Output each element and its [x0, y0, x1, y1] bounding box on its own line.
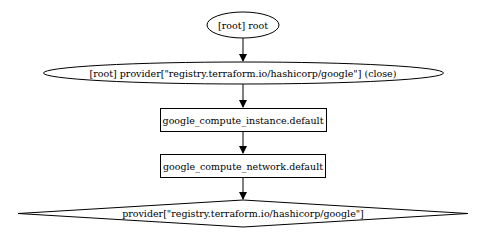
dependency-graph: [root] root [root] provider["registry.te…: [0, 0, 489, 232]
node-root-label: [root] root: [218, 20, 268, 31]
node-provider[interactable]: provider["registry.terraform.io/hashicor…: [18, 200, 468, 227]
node-provider-close[interactable]: [root] provider["registry.terraform.io/h…: [44, 62, 444, 84]
node-compute-instance[interactable]: google_compute_instance.default: [161, 109, 327, 132]
node-compute-network[interactable]: google_compute_network.default: [161, 155, 326, 178]
node-root[interactable]: [root] root: [207, 12, 279, 38]
node-compute-instance-label: google_compute_instance.default: [163, 115, 324, 127]
node-provider-label: provider["registry.terraform.io/hashicor…: [122, 208, 364, 219]
node-compute-network-label: google_compute_network.default: [163, 161, 323, 173]
node-provider-close-label: [root] provider["registry.terraform.io/h…: [90, 68, 397, 79]
